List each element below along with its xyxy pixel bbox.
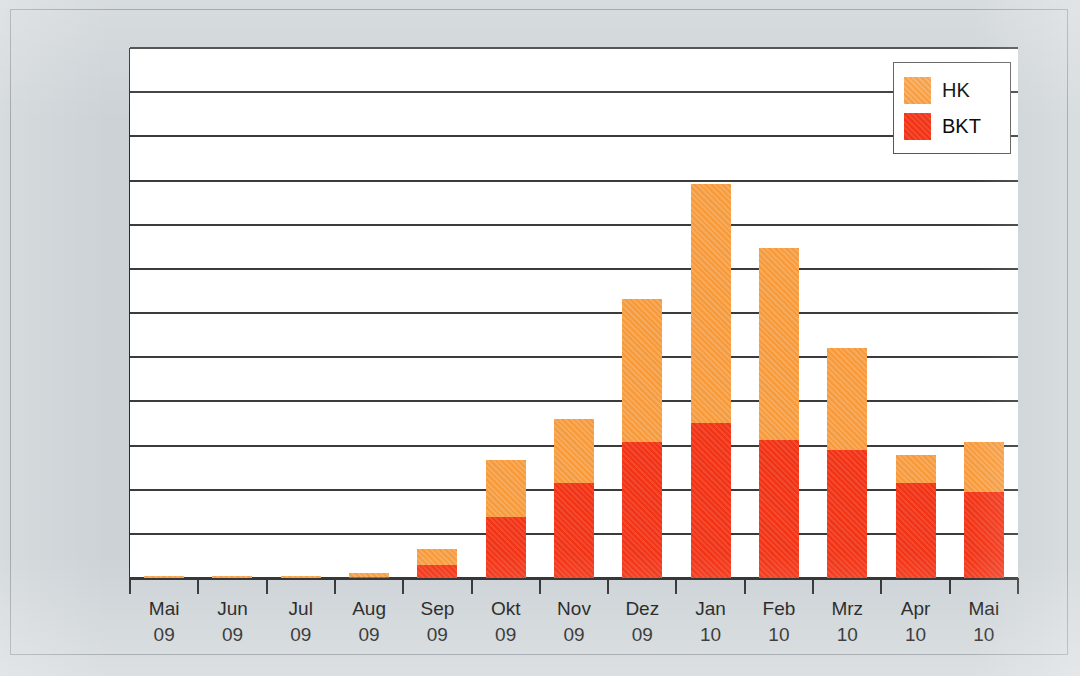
bar-segment-bkt [554,483,594,578]
x-axis-tick [197,578,199,594]
x-axis-tick-label: Jul09 [289,596,313,648]
x-axis-tick-label-month: Apr [901,596,931,622]
x-axis-tick-label-month: Jun [217,596,248,622]
x-axis-tick-label: Sep09 [420,596,454,648]
bar-segment-hk [759,248,799,440]
x-axis-tick [880,578,882,594]
bar-segment-hk [896,455,936,483]
x-axis-tick [471,578,473,594]
x-axis-tick-label-month: Mai [149,596,180,622]
bar-nov-09 [554,48,594,578]
bar-segment-bkt [349,577,389,578]
legend-item-bkt: BKT [904,108,1010,144]
bar-segment-hk [281,576,321,578]
x-axis-tick-label-month: Feb [763,596,796,622]
x-axis-tick-label-year: 10 [763,622,796,648]
bar-mai-09 [144,48,184,578]
legend-label-bkt: BKT [942,115,981,138]
x-axis-tick-label-month: Dez [625,596,659,622]
x-axis-tick-label-year: 09 [217,622,248,648]
x-axis-tick [129,578,131,594]
x-axis-tick [812,578,814,594]
bar-segment-hk [554,419,594,483]
bar-segment-bkt [486,517,526,578]
x-axis-tick [675,578,677,594]
x-axis-tick-label-month: Nov [557,596,591,622]
x-axis-tick-label-year: 09 [420,622,454,648]
x-axis-tick-label-month: Sep [420,596,454,622]
bar-segment-hk [622,299,662,443]
legend-item-hk: HK [904,72,1010,108]
bar-segment-bkt [622,442,662,578]
x-axis-tick-label-month: Jan [695,596,726,622]
x-axis-tick-label-year: 10 [901,622,931,648]
x-axis-tick-label: Mai09 [149,596,180,648]
x-axis-tick [607,578,609,594]
x-axis-tick-label: Jun09 [217,596,248,648]
bar-segment-hk [349,573,389,577]
x-axis-tick-label-month: Okt [491,596,521,622]
x-axis-tick-label-year: 09 [289,622,313,648]
bar-okt-09 [486,48,526,578]
x-axis-tick-label: Nov09 [557,596,591,648]
bar-sep-09 [417,48,457,578]
bar-segment-hk [212,576,252,578]
x-axis-tick-label-year: 10 [831,622,863,648]
x-axis-tick [1017,578,1019,594]
x-axis-tick-label-month: Jul [289,596,313,622]
x-axis-tick-label-year: 09 [352,622,386,648]
bar-dez-09 [622,48,662,578]
bar-aug-09 [349,48,389,578]
x-axis-tick [402,578,404,594]
x-axis-tick [334,578,336,594]
chart-figure: Heizenergie [kWh/(m2Monat)] 024681012141… [0,0,1080,676]
bar-segment-hk [827,348,867,450]
x-axis-tick [539,578,541,594]
x-axis-tick-label-year: 09 [491,622,521,648]
x-axis-tick-label-year: 09 [625,622,659,648]
legend-swatch-bkt-icon [904,113,931,140]
bar-segment-hk [417,549,457,564]
x-axis-tick-label: Apr10 [901,596,931,648]
bar-mrz-10 [827,48,867,578]
x-axis-tick-label-month: Mai [969,596,1000,622]
bar-jul-09 [281,48,321,578]
bar-segment-bkt [417,565,457,578]
x-axis-tick-label: Dez09 [625,596,659,648]
x-axis-tick [266,578,268,594]
x-axis-tick-label-month: Aug [352,596,386,622]
x-axis-tick-label: Mrz10 [831,596,863,648]
bar-jun-09 [212,48,252,578]
legend-swatch-hk-icon [904,77,931,104]
bar-segment-hk [144,576,184,578]
x-axis-tick-label: Jan10 [695,596,726,648]
x-axis-tick [744,578,746,594]
x-axis-tick-label: Feb10 [763,596,796,648]
x-axis-tick-label-year: 10 [969,622,1000,648]
x-axis-tick-label-year: 09 [557,622,591,648]
legend-label-hk: HK [942,79,970,102]
x-axis-tick [949,578,951,594]
bar-segment-hk [486,460,526,517]
legend: HK BKT [893,62,1011,154]
x-axis-tick-label-month: Mrz [831,596,863,622]
bar-segment-hk [691,184,731,424]
bar-segment-bkt [759,440,799,578]
bar-jan-10 [691,48,731,578]
bar-segment-hk [964,442,1004,492]
bar-segment-bkt [827,450,867,578]
x-axis-tick-label: Mai10 [969,596,1000,648]
x-axis-tick-label: Aug09 [352,596,386,648]
bar-segment-bkt [964,492,1004,578]
bar-segment-bkt [896,483,936,578]
x-axis-tick-label-year: 09 [149,622,180,648]
x-axis-tick-label-year: 10 [695,622,726,648]
bar-feb-10 [759,48,799,578]
bar-segment-bkt [691,423,731,578]
x-axis-tick-label: Okt09 [491,596,521,648]
plot-area [130,48,1018,578]
